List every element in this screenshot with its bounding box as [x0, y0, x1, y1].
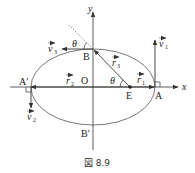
svg-text:2: 2 [33, 117, 36, 123]
svg-text:1: 1 [165, 44, 168, 50]
svg-text:v: v [27, 111, 32, 122]
svg-text:v: v [159, 38, 164, 49]
theta-arc-B [84, 43, 87, 49]
theta-label-E: θ [110, 75, 115, 86]
right-angle-marker-A [155, 82, 160, 87]
ellipse-orbit-diagram: x y O A A′ B B′ E θ θ v 3 v 1 v 2 r 1 r … [0, 0, 195, 173]
svg-text:2: 2 [71, 81, 74, 87]
r1-label: r 1 [137, 74, 145, 86]
svg-text:3: 3 [54, 49, 57, 55]
r2-label: r 2 [66, 75, 74, 87]
right-angle-marker-A-prime [26, 87, 31, 92]
theta-arc-E [120, 80, 123, 87]
v3-label: v 3 [48, 43, 57, 55]
origin-label: O [81, 75, 88, 86]
point-label-A: A [155, 90, 163, 101]
svg-text:r: r [112, 57, 116, 68]
v1-label: v 1 [159, 38, 168, 50]
y-axis-label: y [87, 3, 93, 14]
point-label-A-prime: A′ [19, 76, 28, 87]
svg-text:r: r [137, 74, 141, 85]
point-label-B: B [83, 51, 90, 62]
focus-point-E [128, 85, 132, 89]
point-label-B-prime: B′ [81, 128, 90, 139]
svg-text:r: r [66, 75, 70, 86]
point-label-E: E [126, 90, 132, 101]
svg-text:1: 1 [142, 80, 145, 86]
svg-text:3: 3 [117, 63, 120, 69]
v2-label: v 2 [27, 111, 36, 123]
x-axis-label: x [181, 81, 187, 92]
r3-label: r 3 [112, 57, 120, 69]
theta-label-B: θ [72, 38, 77, 49]
figure-caption: 図 8.9 [84, 158, 110, 168]
svg-text:v: v [48, 43, 53, 54]
